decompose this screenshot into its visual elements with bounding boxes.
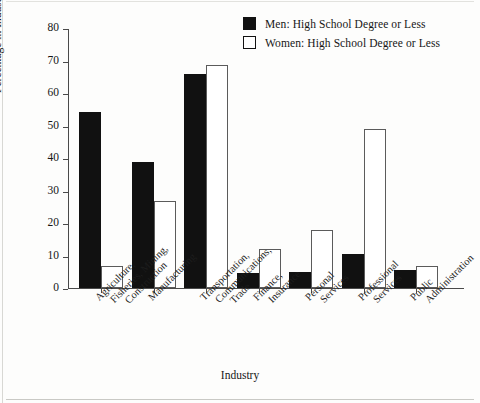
y-tick-label: 50 <box>48 119 60 131</box>
chart-page: Men: High School Degree or Less Women: H… <box>0 0 480 403</box>
y-tick: 40 <box>63 159 68 160</box>
y-tick-label: 0 <box>53 281 59 293</box>
y-tick-label: 20 <box>48 216 60 228</box>
y-tick: 50 <box>63 127 68 128</box>
bar-men <box>79 112 101 288</box>
y-tick: 80 <box>63 29 68 30</box>
y-tick: 70 <box>63 62 68 63</box>
y-axis-line <box>68 29 69 289</box>
legend-label-men: Men: High School Degree or Less <box>265 18 426 30</box>
bar-women <box>364 129 386 288</box>
page-top-rule <box>6 1 474 2</box>
x-axis-title: Industry <box>0 369 480 381</box>
page-bottom-rule <box>6 399 474 400</box>
bar-women <box>206 65 228 288</box>
y-tick: 0 <box>63 289 68 290</box>
y-tick-label: 10 <box>48 249 60 261</box>
y-tick-label: 30 <box>48 184 60 196</box>
y-tick-label: 70 <box>48 54 60 66</box>
y-tick-label: 80 <box>48 21 60 33</box>
y-axis-title: Percentage in Industry <box>0 0 3 93</box>
y-tick: 10 <box>63 257 68 258</box>
y-tick: 60 <box>63 94 68 95</box>
y-tick-label: 40 <box>48 151 60 163</box>
y-tick: 20 <box>63 224 68 225</box>
y-tick-label: 60 <box>48 86 60 98</box>
y-tick: 30 <box>63 192 68 193</box>
